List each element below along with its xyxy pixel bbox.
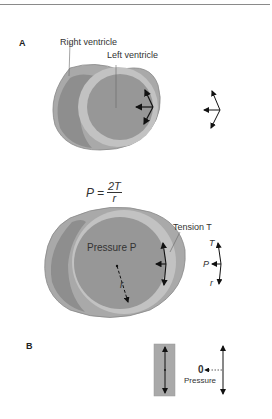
vector-label-r: r	[210, 278, 213, 288]
vector-label-p: P	[203, 259, 209, 269]
heart-top	[53, 42, 160, 150]
formula-denominator: r	[112, 193, 116, 204]
vector-label-t: T	[209, 238, 215, 248]
formula-lhs: P =	[86, 186, 104, 200]
label-pressure: Pressure P	[87, 242, 136, 253]
pressure-vectors-b	[205, 346, 223, 394]
label-pressure-b: Pressure	[184, 376, 216, 385]
force-vectors-bottom	[212, 243, 221, 284]
formula-fraction: 2T r	[107, 181, 122, 204]
label-radius: r	[120, 279, 123, 290]
laplace-formula: P = 2T r	[86, 181, 122, 204]
force-vectors-top	[204, 91, 220, 128]
heart-bottom	[45, 207, 186, 317]
label-zero: 0	[198, 364, 204, 375]
label-tension: Tension T	[173, 222, 212, 232]
heart-diagram	[0, 0, 272, 419]
panel-label-b: B	[26, 341, 33, 351]
wall-segment-b	[154, 344, 175, 396]
